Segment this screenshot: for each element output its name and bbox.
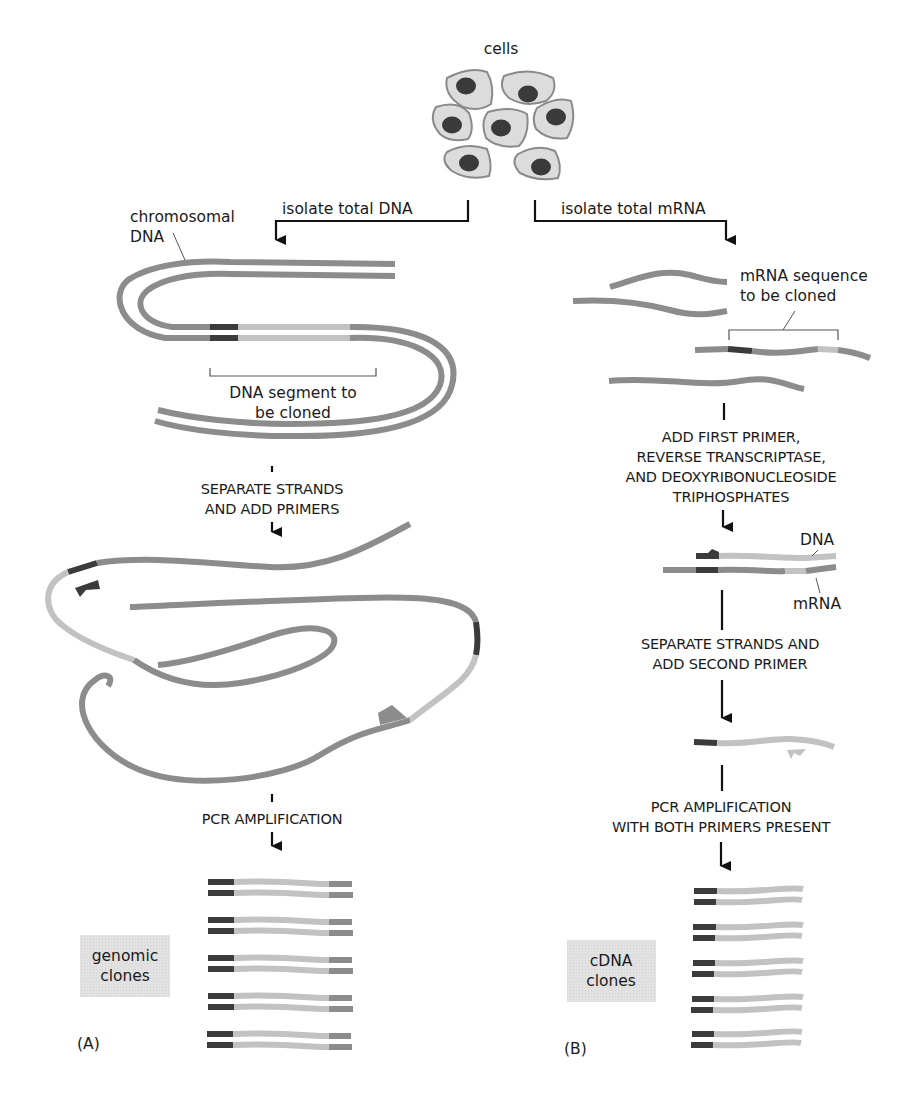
isolate-dna-label: isolate total DNA: [282, 200, 413, 218]
add-first-primer-label-4: TRIPHOSPHATES: [672, 489, 790, 505]
panel-b-letter: (B): [564, 1040, 587, 1058]
dna-label: DNA: [800, 531, 835, 549]
add-first-primer-label-1: ADD FIRST PRIMER,: [662, 429, 800, 445]
segment-label-1: DNA segment to: [229, 384, 357, 402]
panel-a-letter: (A): [77, 1035, 100, 1053]
primer-icon: [787, 749, 806, 759]
clone-pair: [207, 1034, 352, 1048]
dna-mrna-hybrid: [663, 549, 836, 571]
genomic-clones-label-1: genomic: [92, 947, 159, 965]
panel-a-genomic: isolate total DNA chromosomal DNA DNA se…: [48, 200, 477, 1053]
isolate-mrna-label: isolate total mRNA: [561, 200, 706, 218]
separate-strands-b-label-1: SEPARATE STRANDS AND: [641, 636, 819, 652]
add-first-primer-label-2: REVERSE TRANSCRIPTASE,: [636, 449, 825, 465]
pcr-both-primers-label-2: WITH BOTH PRIMERS PRESENT: [612, 819, 831, 835]
pcr-amplification-label: PCR AMPLIFICATION: [202, 811, 343, 827]
pcr-cloning-diagram: cells isolate total DNA chromosomal DNA: [0, 0, 917, 1103]
pcr-both-primers-label-1: PCR AMPLIFICATION: [651, 799, 792, 815]
clone-pair: [691, 996, 803, 1010]
chromosomal-label: chromosomal: [130, 208, 235, 226]
cells-cluster: cells: [433, 40, 573, 179]
clone-pair: [208, 996, 353, 1010]
separate-strands-label-2: AND ADD PRIMERS: [205, 501, 339, 517]
clone-pair: [693, 924, 803, 938]
chromosomal-dna-label: DNA: [130, 228, 165, 246]
cdna-clones-box: [567, 940, 656, 1002]
genomic-clones: [207, 882, 353, 1048]
separate-strands-b-label-2: ADD SECOND PRIMER: [653, 656, 808, 672]
cdna-clones: [691, 888, 803, 1045]
genomic-clones-label-2: clones: [100, 967, 150, 985]
clone-pair: [208, 958, 353, 972]
cells-label: cells: [484, 40, 519, 58]
segment-label-2: be cloned: [255, 404, 331, 422]
mrna-leader-line: [816, 578, 820, 593]
primer-icon: [75, 580, 100, 597]
mrna-leader-line: [783, 311, 795, 330]
genomic-clones-box: [80, 935, 170, 997]
panel-b-cdna: isolate total mRNA mRNA sequence to be c…: [535, 200, 870, 1058]
segment-bracket: [210, 368, 376, 376]
add-first-primer-label-3: AND DEOXYRIBONUCLEOSIDE: [625, 469, 836, 485]
primer-icon: [696, 549, 719, 559]
clone-pair: [208, 920, 353, 934]
mrna-label: mRNA: [793, 595, 841, 613]
separated-strands: [48, 524, 477, 781]
clone-pair: [691, 1031, 802, 1045]
cdna-clones-label-2: clones: [586, 972, 636, 990]
single-cdna: [694, 739, 834, 759]
mrna-bracket: [729, 330, 838, 340]
separate-strands-label-1: SEPARATE STRANDS: [201, 481, 344, 497]
mrna-sequence-label-2: to be cloned: [740, 287, 836, 305]
mrna-sequence-label-1: mRNA sequence: [740, 267, 868, 285]
clone-pair: [208, 882, 353, 896]
chromosome-leader-line: [173, 233, 185, 260]
cdna-clones-label-1: cDNA: [590, 952, 633, 970]
clone-pair: [694, 888, 803, 902]
clone-pair: [692, 960, 803, 974]
